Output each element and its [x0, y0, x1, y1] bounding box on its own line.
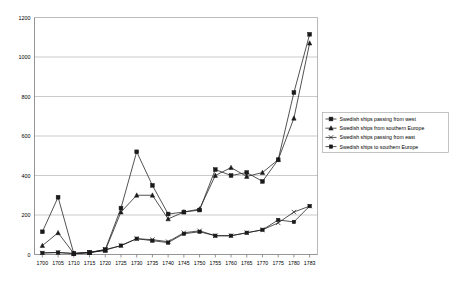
marker-triangle-1-12 [229, 165, 233, 169]
x-axis-ticks: 1700170517101715172017251730173517401745… [37, 255, 316, 267]
x-tick-label: 1755 [210, 260, 222, 266]
marker-square-0-11 [213, 168, 217, 172]
series-1 [40, 41, 312, 256]
x-tick-label: 1705 [52, 260, 64, 266]
marker-square-small-3-6 [135, 237, 138, 240]
legend-label-2: Swedish ships passing from east [340, 134, 416, 140]
y-tick-label: 800 [22, 94, 31, 100]
x-tick-label: 1710 [68, 260, 80, 266]
marker-square-small-3-10 [198, 230, 201, 233]
marker-square-small-3-16 [292, 220, 295, 223]
marker-square-0-0 [40, 230, 44, 234]
marker-square-small-3-7 [151, 239, 154, 242]
marker-square-small-3-5 [119, 244, 122, 247]
y-tick-label: 200 [22, 212, 31, 218]
x-tick-label: 1720 [99, 260, 111, 266]
legend-item-1[interactable]: Swedish ships from southern Europe [326, 125, 425, 131]
marker-square-0-1 [56, 195, 60, 199]
marker-triangle-1-0 [40, 243, 44, 247]
legend-label-1: Swedish ships from southern Europe [340, 125, 425, 131]
chart-canvas: 0200400600800100012001700170517101715172… [0, 0, 452, 283]
marker-square-small-3-12 [229, 234, 232, 237]
marker-cross-2-16 [292, 210, 296, 214]
series-line-1 [42, 43, 309, 253]
y-tick-label: 0 [28, 252, 31, 258]
marker-square-small-3-17 [308, 204, 311, 207]
legend-item-0[interactable]: Swedish ships passing from west [326, 116, 417, 122]
x-tick-label: 1775 [272, 260, 284, 266]
marker-square-small-3-14 [261, 228, 264, 231]
marker-square-small-legend-3 [329, 145, 332, 148]
series-0 [40, 32, 311, 255]
marker-triangle-1-16 [292, 116, 296, 120]
marker-square-small-3-2 [72, 252, 75, 255]
marker-square-0-16 [292, 91, 296, 95]
marker-square-small-3-0 [41, 251, 44, 254]
x-tick-label: 1700 [37, 260, 49, 266]
x-tick-label: 1725 [115, 260, 127, 266]
y-tick-label: 1000 [19, 54, 31, 60]
x-tick-label: 1765 [241, 260, 253, 266]
x-tick-label: 1783 [304, 260, 316, 266]
y-tick-label: 1200 [19, 15, 31, 21]
legend-label-0: Swedish ships passing from west [340, 116, 417, 122]
marker-square-0-17 [308, 32, 312, 36]
marker-square-0-6 [135, 150, 139, 154]
marker-square-small-3-11 [214, 234, 217, 237]
legend-item-2[interactable]: Swedish ships passing from east [326, 134, 416, 140]
marker-square-0-8 [166, 212, 170, 216]
marker-square-small-3-1 [56, 251, 59, 254]
x-tick-label: 1740 [162, 260, 174, 266]
marker-square-0-7 [151, 183, 155, 187]
marker-square-small-3-9 [182, 232, 185, 235]
y-tick-label: 400 [22, 173, 31, 179]
x-tick-label: 1745 [178, 260, 190, 266]
marker-square-0-14 [261, 180, 265, 184]
x-tick-label: 1770 [257, 260, 269, 266]
x-tick-label: 1735 [147, 260, 159, 266]
line-chart: 0200400600800100012001700170517101715172… [0, 0, 452, 283]
marker-square-small-3-3 [88, 251, 91, 254]
marker-triangle-1-1 [56, 230, 60, 234]
chart-legend: Swedish ships passing from westSwedish s… [323, 113, 449, 153]
y-tick-label: 600 [22, 133, 31, 139]
x-tick-label: 1730 [131, 260, 143, 266]
legend-item-3[interactable]: Swedish ships to southern Europe [326, 144, 419, 150]
x-tick-label: 1750 [194, 260, 206, 266]
marker-square-legend-0 [329, 117, 333, 121]
marker-triangle-1-14 [260, 170, 264, 174]
marker-square-small-3-13 [245, 231, 248, 234]
x-tick-label: 1780 [288, 260, 300, 266]
marker-square-small-3-4 [104, 248, 107, 251]
series-3 [41, 204, 312, 255]
series-2 [40, 204, 312, 256]
marker-square-small-3-8 [166, 241, 169, 244]
marker-square-small-3-15 [276, 218, 279, 221]
legend-label-3: Swedish ships to southern Europe [340, 144, 419, 150]
series-line-0 [42, 34, 309, 253]
x-tick-label: 1715 [84, 260, 96, 266]
marker-square-0-12 [229, 174, 233, 178]
x-tick-label: 1760 [225, 260, 237, 266]
